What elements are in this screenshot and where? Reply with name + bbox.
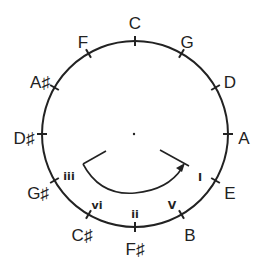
- note-label: A♯: [30, 73, 50, 92]
- degree-label: ii: [131, 208, 139, 221]
- note-label: C♯: [72, 226, 93, 245]
- degree-label: V: [168, 199, 177, 212]
- arrow-arc: [83, 164, 182, 193]
- note-label: A: [238, 129, 250, 148]
- note-label: D♯: [14, 129, 35, 148]
- degree-label: iii: [63, 170, 74, 183]
- note-label: F♯: [126, 240, 145, 259]
- center-dot: [133, 133, 135, 135]
- degree-label: I: [198, 171, 202, 184]
- note-labels: CGDAEBF♯C♯G♯D♯A♯F: [14, 14, 251, 259]
- degree-label: vi: [92, 199, 103, 212]
- note-label: B: [184, 226, 195, 245]
- note-label: D: [224, 73, 236, 92]
- note-label: G: [180, 33, 193, 52]
- note-label: C: [129, 14, 141, 33]
- note-label: E: [224, 184, 235, 203]
- note-label: G♯: [27, 184, 49, 203]
- note-label: F: [78, 33, 88, 52]
- arrowhead-icon: [176, 163, 185, 172]
- arrow-left-bracket: [83, 151, 106, 164]
- circle-of-fifths-diagram: CGDAEBF♯C♯G♯D♯A♯F IViiviiii: [0, 0, 263, 266]
- rotation-arrow: [83, 150, 189, 193]
